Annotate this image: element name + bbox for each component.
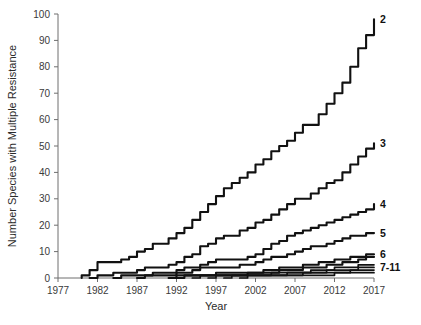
y-tick-label: 40 (39, 167, 51, 178)
x-tick-label: 2012 (323, 285, 346, 296)
y-axis-title: Number Species with Multiple Resistance (6, 45, 18, 247)
x-tick-label: 2007 (284, 285, 307, 296)
x-tick-label: 2017 (363, 285, 386, 296)
x-axis-title: Year (205, 300, 228, 312)
series-label-5: 5 (380, 227, 386, 239)
x-axis-ticks: 197719821987199219972002200720122017 (47, 278, 386, 296)
series-end-labels: 234567-11 (380, 13, 401, 273)
x-tick-label: 2002 (244, 285, 267, 296)
series-line-10 (224, 270, 374, 278)
series-lines (82, 19, 374, 278)
series-label-3: 3 (380, 137, 386, 149)
y-axis-ticks: 0102030405060708090100 (33, 9, 58, 284)
x-tick-label: 1977 (47, 285, 70, 296)
series-label-2: 2 (380, 13, 386, 25)
y-tick-label: 30 (39, 193, 51, 204)
y-tick-label: 50 (39, 141, 51, 152)
y-tick-label: 10 (39, 246, 51, 257)
x-tick-label: 1992 (165, 285, 188, 296)
x-tick-label: 1982 (86, 285, 109, 296)
series-label-7-11: 7-11 (380, 261, 401, 273)
series-line-2 (82, 19, 374, 278)
x-tick-label: 1987 (126, 285, 149, 296)
y-tick-label: 60 (39, 114, 51, 125)
series-label-4: 4 (380, 198, 386, 210)
y-tick-label: 0 (44, 273, 50, 284)
y-tick-label: 100 (33, 9, 50, 20)
y-tick-label: 90 (39, 35, 51, 46)
chart-plot-area: 0102030405060708090100 19771982198719921… (0, 0, 421, 325)
y-tick-label: 20 (39, 220, 51, 231)
x-tick-label: 1997 (205, 285, 228, 296)
series-label-6: 6 (380, 248, 386, 260)
chart-figure: 0102030405060708090100 19771982198719921… (0, 0, 421, 325)
y-tick-label: 70 (39, 88, 51, 99)
y-tick-label: 80 (39, 61, 51, 72)
